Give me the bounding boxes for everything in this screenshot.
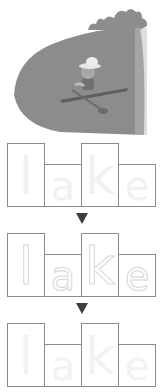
down-arrow-icon — [76, 303, 88, 314]
letter: l — [19, 150, 33, 202]
letter: k — [85, 330, 115, 382]
letter: a — [51, 346, 76, 386]
letter-box-tall: l — [7, 233, 45, 297]
word-row-dotted: l a k e — [7, 233, 157, 297]
letter: e — [125, 166, 150, 206]
word-row-outline: l a k e — [7, 143, 157, 207]
letter-box-short: e — [118, 254, 156, 297]
letter: e — [125, 346, 150, 386]
letter-box-short: e — [118, 164, 156, 207]
letter: a — [51, 256, 76, 296]
letter: l — [19, 330, 33, 382]
letter-box-tall: l — [7, 143, 45, 207]
letter: e — [125, 256, 150, 296]
letter: a — [51, 166, 76, 206]
letter: l — [19, 240, 33, 292]
letter-box-short: e — [118, 344, 156, 387]
letter-box-short: a — [44, 254, 82, 297]
letter-box-tall: k — [81, 143, 119, 207]
word-row-faint: l a k e — [7, 323, 157, 387]
letter-box-short: a — [44, 344, 82, 387]
letter: k — [85, 150, 115, 202]
down-arrow-icon — [76, 213, 88, 224]
letter-box-tall: k — [81, 233, 119, 297]
letter-box-tall: k — [81, 323, 119, 387]
letter-box-short: a — [44, 164, 82, 207]
letter: k — [85, 240, 115, 292]
lake-kayak-illustration — [0, 0, 167, 135]
letter-box-tall: l — [7, 323, 45, 387]
